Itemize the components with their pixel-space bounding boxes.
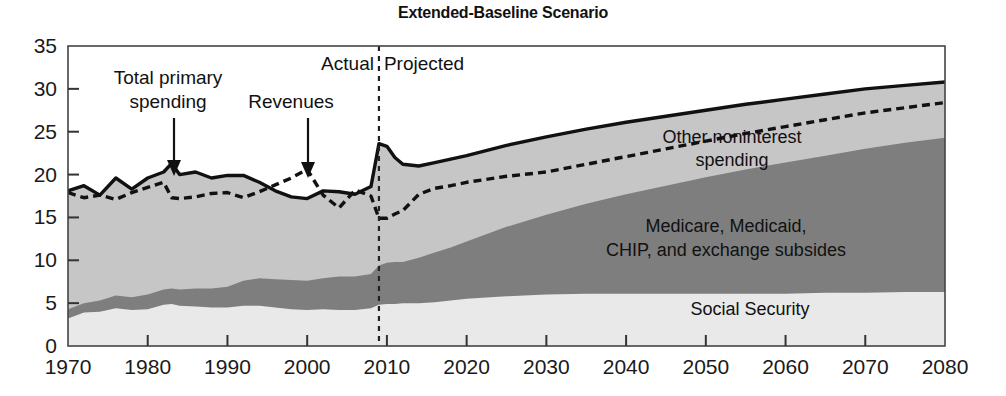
band-label-other-noninterest-line1: Other noninterest bbox=[662, 127, 801, 147]
y-tick-label-25: 25 bbox=[34, 120, 57, 143]
y-tick-label-0: 0 bbox=[45, 334, 57, 357]
annotation-revenues: Revenues bbox=[248, 91, 334, 112]
x-tick-label-1980: 1980 bbox=[124, 355, 171, 378]
x-tick-label-1990: 1990 bbox=[204, 355, 251, 378]
y-tick-label-20: 20 bbox=[34, 163, 57, 186]
band-label-health-programs-line2: CHIP, and exchange subsides bbox=[606, 240, 846, 260]
y-tick-label-10: 10 bbox=[34, 248, 57, 271]
chart-page: Extended-Baseline Scenario 0510152025303… bbox=[0, 0, 1006, 396]
x-tick-label-1970: 1970 bbox=[45, 355, 92, 378]
y-tick-label-5: 5 bbox=[45, 291, 57, 314]
x-tick-label-2080: 2080 bbox=[922, 355, 969, 378]
y-tick-label-15: 15 bbox=[34, 205, 57, 228]
y-tick-label-30: 30 bbox=[34, 77, 57, 100]
label-projected: Projected bbox=[384, 53, 464, 74]
x-tick-label-2030: 2030 bbox=[523, 355, 570, 378]
x-tick-label-2010: 2010 bbox=[364, 355, 411, 378]
x-tick-label-2000: 2000 bbox=[284, 355, 331, 378]
band-label-social-security: Social Security bbox=[690, 299, 809, 319]
x-tick-label-2070: 2070 bbox=[842, 355, 889, 378]
band-label-other-noninterest-line2: spending bbox=[695, 150, 768, 170]
x-tick-label-2040: 2040 bbox=[603, 355, 650, 378]
chart-canvas: 05101520253035 1970198019902000201020202… bbox=[0, 0, 1006, 396]
annotation-total-primary-spending-line1: Total primary bbox=[114, 67, 223, 88]
label-actual: Actual bbox=[321, 53, 374, 74]
band-label-health-programs-line1: Medicare, Medicaid, bbox=[645, 216, 806, 236]
x-tick-label-2050: 2050 bbox=[682, 355, 729, 378]
annotation-total-primary-spending-line2: spending bbox=[129, 91, 206, 112]
x-tick-label-2060: 2060 bbox=[762, 355, 809, 378]
x-tick-label-2020: 2020 bbox=[443, 355, 490, 378]
y-tick-label-35: 35 bbox=[34, 34, 57, 57]
